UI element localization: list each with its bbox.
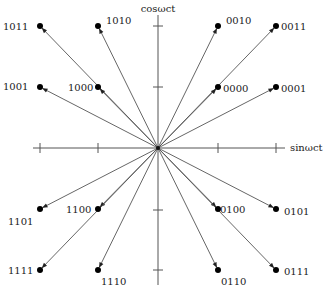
point-1001 (37, 84, 43, 90)
point-label-1111: 1111 (8, 265, 33, 276)
vector-1001 (43, 88, 158, 148)
point-label-0010: 0010 (226, 15, 251, 26)
vector-1000 (100, 89, 158, 148)
point-0001 (273, 84, 279, 90)
vector-1010 (99, 29, 158, 148)
vector-1101 (43, 148, 158, 208)
point-label-1110: 1110 (101, 276, 126, 287)
point-1100 (95, 206, 101, 212)
point-label-1010: 1010 (106, 15, 131, 26)
point-0000 (215, 84, 221, 90)
point-1111 (37, 267, 43, 273)
point-1011 (37, 23, 43, 29)
point-label-0001: 0001 (281, 83, 306, 94)
point-label-1001: 1001 (3, 81, 28, 92)
point-label-0000: 0000 (223, 83, 248, 94)
point-1000 (95, 84, 101, 90)
point-label-1011: 1011 (3, 21, 28, 32)
point-label-0111: 0111 (284, 266, 309, 277)
point-label-1101: 1101 (8, 216, 33, 227)
point-0111 (273, 267, 279, 273)
x-axis-label: sinωct (290, 142, 323, 153)
point-1010 (95, 23, 101, 29)
point-0011 (273, 23, 279, 29)
point-0101 (273, 206, 279, 212)
point-1101 (37, 206, 43, 212)
vector-0101 (158, 148, 273, 208)
origin-dot (156, 146, 160, 150)
vector-0010 (158, 29, 217, 148)
point-0010 (215, 23, 221, 29)
point-0110 (215, 267, 221, 273)
point-label-0100: 0100 (220, 204, 245, 215)
point-1110 (95, 267, 101, 273)
point-label-1000: 1000 (68, 82, 93, 93)
vector-0000 (158, 89, 216, 148)
point-label-0011: 0011 (281, 21, 306, 32)
vector-0001 (158, 88, 273, 148)
vector-0110 (158, 148, 217, 267)
constellation-diagram: 1011101000100011100110000000000111011100… (0, 0, 327, 294)
y-axis-label: cosωct (141, 3, 176, 14)
vector-1110 (99, 148, 158, 267)
point-label-1100: 1100 (66, 204, 91, 215)
point-label-0110: 0110 (221, 276, 246, 287)
point-label-0101: 0101 (284, 206, 309, 217)
